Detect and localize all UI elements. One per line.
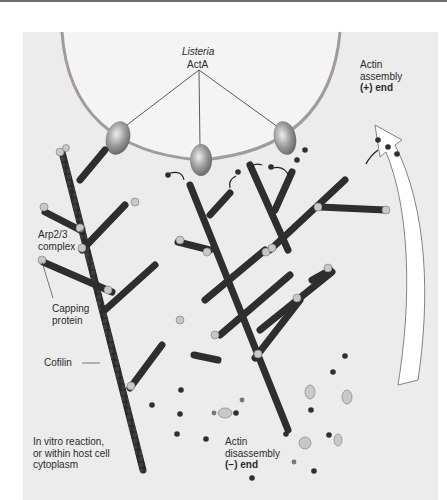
actin-filaments bbox=[43, 150, 385, 470]
actin-disassembly-label: Actin disassembly (−) end bbox=[225, 436, 280, 471]
actin-assembly-label: Actin assembly (+) end bbox=[360, 59, 402, 94]
capping-protein-label: Capping protein bbox=[52, 303, 89, 326]
arp23-complex-label: Arp2/3 complex bbox=[38, 229, 75, 252]
context-label: In vitro reaction, or within host cell c… bbox=[33, 436, 110, 471]
acta-label: ActA bbox=[187, 59, 208, 71]
assembly-arrow-icon bbox=[375, 125, 425, 385]
cofilin-label: Cofilin bbox=[44, 357, 72, 369]
actin-monomer-icons bbox=[149, 137, 400, 481]
listeria-label: Listeria bbox=[182, 46, 214, 58]
